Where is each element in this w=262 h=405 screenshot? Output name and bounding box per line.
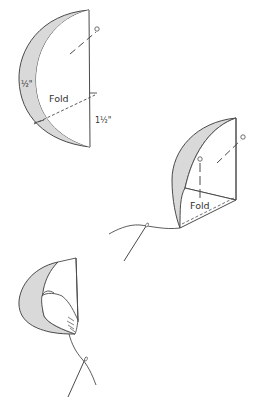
fold-label-2: Fold [190,200,210,211]
measure-label: 1½" [95,116,112,125]
needle-eye-icon-3 [84,356,88,361]
pin-head-icon [95,27,99,31]
thread-3 [69,334,96,385]
needle-eye-icon-2 [145,222,149,227]
figure-1-pattern: ½" Fold 1½" [19,10,112,147]
figure-3-gathering [19,258,96,397]
fold-label-1: Fold [49,93,69,104]
needle-icon-3 [68,357,86,397]
pin-head-icon-2a [241,135,245,139]
pin-head-icon-2b [198,157,202,161]
pocket-diagram: ½" Fold 1½" Fold [0,0,262,405]
figure-2-folding: Fold [109,118,245,261]
seam-allowance-label: ½" [21,80,32,89]
needle-icon-2 [124,223,148,261]
